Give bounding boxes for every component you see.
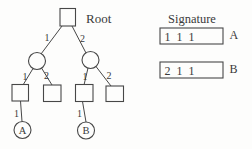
internal-node-left <box>29 53 46 70</box>
terminal-node-b-label: B <box>82 125 89 136</box>
signature-title: Signature <box>168 12 216 26</box>
edge-label-left-2: 2 <box>44 70 49 81</box>
root-node <box>60 9 76 27</box>
leaf-square-4 <box>106 86 124 102</box>
edge-label-left-1: 1 <box>23 71 28 82</box>
edge-label-square3-b: 1 <box>77 108 82 119</box>
edge-label-root-right: 2 <box>80 33 85 44</box>
edge-label-right-2: 2 <box>107 70 112 81</box>
edge-square3-b <box>83 102 87 123</box>
signature-value-a: 1 1 1 <box>165 30 197 44</box>
edge-label-right-1: 1 <box>83 71 88 82</box>
edge-label-root-left: 1 <box>45 32 50 43</box>
scanned-diagram: Root 1 2 1 2 1 2 1 1 A B Signature 1 1 1… <box>0 0 252 149</box>
signature-value-b: 2 1 1 <box>165 64 197 78</box>
leaf-square-2 <box>44 85 62 102</box>
root-node-label: Root <box>86 11 112 26</box>
edge-square1-a <box>21 101 23 122</box>
terminal-node-a-label: A <box>19 125 27 136</box>
leaf-square-3 <box>76 85 94 102</box>
signature-entry-label-b: B <box>230 62 238 76</box>
leaf-square-1 <box>12 85 29 102</box>
edge-label-square1-a: 1 <box>14 108 19 119</box>
diagram-canvas: Root 1 2 1 2 1 2 1 1 A B Signature 1 1 1… <box>0 0 252 149</box>
signature-entry-label-a: A <box>230 28 239 42</box>
internal-node-right <box>82 52 99 69</box>
